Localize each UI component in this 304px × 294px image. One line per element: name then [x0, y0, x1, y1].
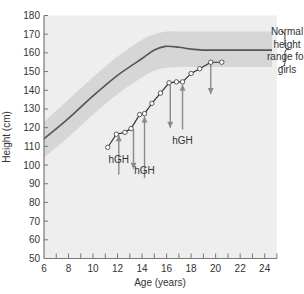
data-point-marker	[180, 80, 184, 84]
y-tick-label: 130	[23, 103, 40, 114]
data-point-marker	[150, 101, 154, 105]
range-label-line: Normal	[271, 26, 303, 37]
data-point-marker	[167, 81, 171, 85]
range-label-line: range for	[267, 51, 304, 62]
x-tick-label: 8	[66, 263, 72, 274]
x-axis-label: Age (years)	[134, 277, 186, 288]
y-tick-label: 60	[29, 234, 41, 245]
height-growth-chart: hGHhGHhGH 506070809010011012013014015016…	[0, 0, 304, 294]
hgh-label: hGH	[172, 135, 193, 146]
x-tick-label: 22	[235, 263, 247, 274]
y-tick-label: 110	[24, 141, 40, 152]
data-point-marker	[209, 60, 213, 64]
data-point-marker	[174, 80, 178, 84]
data-point-marker	[137, 112, 141, 116]
x-tick-label: 16	[161, 263, 173, 274]
y-tick-label: 100	[23, 160, 40, 171]
x-tick-label: 14	[137, 263, 149, 274]
range-label-line: girls	[278, 64, 296, 75]
data-point-marker	[189, 71, 193, 75]
data-point-marker	[158, 91, 162, 95]
data-point-marker	[114, 132, 118, 136]
y-tick-label: 180	[23, 10, 40, 21]
y-tick-label: 160	[23, 47, 40, 58]
x-tick-label: 6	[41, 263, 47, 274]
hgh-label: hGH	[134, 165, 155, 176]
x-tick-label: 18	[186, 263, 198, 274]
data-point-marker	[123, 130, 127, 134]
y-tick-label: 120	[23, 122, 40, 133]
y-axis-label: Height (cm)	[1, 111, 12, 163]
data-point-marker	[220, 60, 224, 64]
y-tick-label: 170	[23, 29, 40, 40]
range-label-line: height	[273, 39, 300, 50]
data-point-marker	[142, 111, 146, 115]
y-tick-label: 90	[29, 178, 41, 189]
y-tick-label: 150	[23, 66, 40, 77]
x-tick-label: 24	[259, 263, 271, 274]
data-point-marker	[198, 67, 202, 71]
y-tick-label: 80	[29, 197, 41, 208]
x-tick-label: 10	[87, 263, 99, 274]
y-tick-label: 70	[29, 216, 41, 227]
data-point-marker	[129, 126, 133, 130]
chart: hGHhGHhGH 506070809010011012013014015016…	[0, 0, 304, 294]
x-tick-label: 12	[112, 263, 124, 274]
y-tick-label: 50	[29, 253, 41, 264]
y-tick-label: 140	[23, 85, 40, 96]
data-point-marker	[106, 145, 110, 149]
hgh-label: hGH	[109, 154, 130, 165]
x-tick-label: 20	[210, 263, 222, 274]
